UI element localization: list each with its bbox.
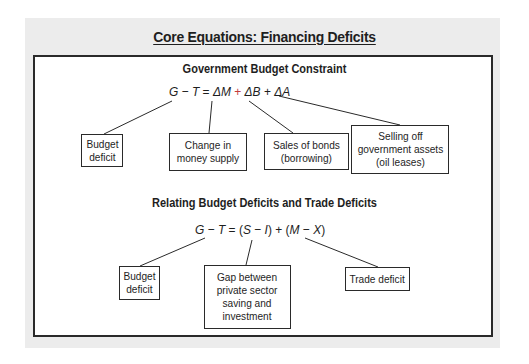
eq-plus: + [275,222,282,237]
eq-equals: = [229,222,236,237]
eq-var-g: G [195,222,204,237]
box-change-in-money-supply: Change in money supply [169,133,247,171]
eq-var-g: G [169,84,178,99]
eq-minus: − [303,222,310,237]
eq-var-t: T [218,222,225,237]
box-label: Trade deficit [350,273,405,286]
eq-paren-close: ) [268,222,272,237]
box-label: Sales of bonds (borrowing) [273,139,340,165]
box-budget-deficit-2: Budget deficit [119,266,160,300]
section-heading-budget-constraint: Government Budget Constraint [32,62,498,76]
box-label: Budget deficit [86,138,118,164]
eq-var-t: T [192,84,199,99]
eq-var-m: M [290,222,300,237]
eq-delta-b: ΔB [245,84,261,99]
eq-delta-m: ΔM [213,84,231,99]
box-sales-of-bonds: Sales of bonds (borrowing) [264,133,349,170]
eq-paren-close: ) [321,222,325,237]
eq-equals: = [203,84,210,99]
box-label: Gap between private sector saving and in… [217,271,278,323]
section-heading-budget-trade-deficits: Relating Budget Deficits and Trade Defic… [32,196,498,210]
eq-delta-a: ΔA [274,84,290,99]
box-label: Budget deficit [123,270,155,296]
box-saving-investment-gap: Gap between private sector saving and in… [204,265,291,329]
eq-plus-1: + [234,84,241,99]
box-label: Change in money supply [177,139,239,165]
eq-minus: − [208,222,215,237]
eq-var-s: S [243,222,251,237]
box-trade-deficit: Trade deficit [345,267,410,291]
eq-var-x: X [313,222,321,237]
box-budget-deficit: Budget deficit [81,134,123,167]
page-title: Core Equations: Financing Deficits [26,28,502,46]
box-selling-government-assets: Selling off government assets (oil lease… [351,125,449,174]
equation-budget-trade: G − T = (S − I) + (M − X) [195,222,325,237]
eq-minus: − [182,84,189,99]
equation-budget-constraint: G − T = ΔM + ΔB + ΔA [169,84,290,99]
eq-plus-2: + [264,84,271,99]
box-label: Selling off government assets (oil lease… [357,130,443,169]
eq-minus: − [254,222,261,237]
